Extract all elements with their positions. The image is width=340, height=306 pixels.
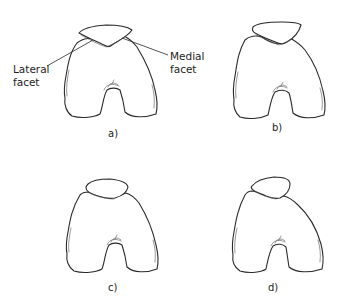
patella-types-diagram: a) Lateral facet Medial facet b) c) d): [0, 0, 340, 306]
lateral-facet-label-line2: facet: [13, 76, 39, 88]
panel-c-label: c): [108, 282, 117, 293]
panel-b-label: b): [272, 122, 282, 133]
lateral-facet-label-line1: Lateral: [13, 63, 50, 75]
panel-d: d): [232, 177, 323, 293]
panel-b: b): [233, 22, 325, 133]
panel-a: a): [47, 25, 168, 139]
panel-c: c): [66, 179, 158, 293]
femur-c: [66, 192, 158, 272]
femur-b: [233, 36, 325, 118]
panel-a-label: a): [108, 128, 118, 139]
medial-facet-label-line2: facet: [170, 63, 196, 75]
femur-d: [232, 191, 323, 272]
panel-d-label: d): [268, 282, 278, 293]
medial-facet-label-line1: Medial: [170, 50, 204, 62]
